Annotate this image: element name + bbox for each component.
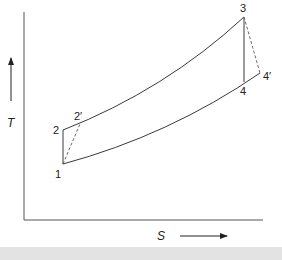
bottom-band — [0, 247, 282, 260]
point-label-2: 2 — [53, 124, 59, 136]
process-3-4prime — [244, 17, 260, 73]
point-label-4: 4 — [240, 85, 246, 97]
process-2-3 — [63, 17, 244, 130]
point-label-4prime: 4′ — [263, 70, 271, 82]
process-1-2prime — [63, 124, 80, 164]
process-1-4prime — [63, 73, 260, 164]
point-label-1: 1 — [55, 168, 61, 180]
x-axis-label: S — [157, 229, 165, 243]
point-label-2prime: 2′ — [74, 110, 82, 122]
ts-diagram: T S 1 2 2′ 3 4 4′ — [0, 0, 282, 260]
y-axis-label: T — [7, 116, 16, 130]
point-label-3: 3 — [240, 2, 246, 14]
